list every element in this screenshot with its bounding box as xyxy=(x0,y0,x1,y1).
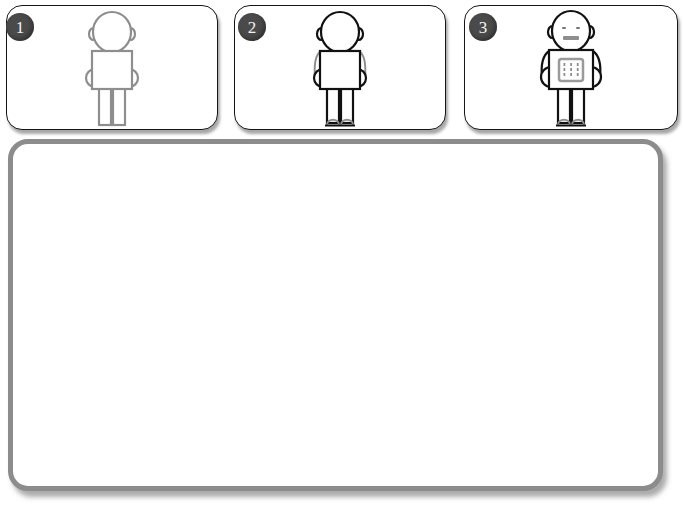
robot-figure-with-face-and-panel-icon xyxy=(521,7,621,129)
empty-canvas-panel[interactable] xyxy=(8,139,663,491)
human-figure-outline-dark-icon xyxy=(290,7,390,129)
human-figure-outline-gray-icon xyxy=(62,7,162,129)
step-badge-2: 2 xyxy=(238,13,266,41)
page-canvas: 1 xyxy=(0,0,683,507)
step-badge-1: 1 xyxy=(6,13,34,41)
step-card-1[interactable] xyxy=(6,5,218,130)
figure-1-container xyxy=(7,6,217,129)
figure-2-container xyxy=(235,6,445,129)
canvas-content-area[interactable] xyxy=(13,144,658,486)
step-badge-3: 3 xyxy=(469,13,497,41)
